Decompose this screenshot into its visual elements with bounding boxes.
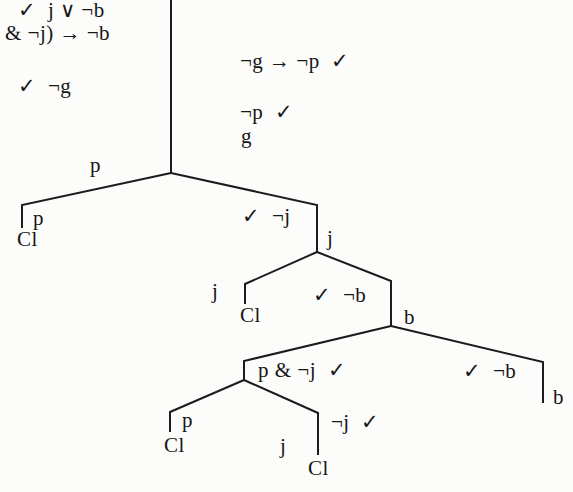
node-label-j: j [327, 228, 333, 249]
formula-checked-not-b-2: ✓ ¬b [463, 361, 516, 382]
closure-mark-2: Cl [240, 305, 261, 326]
formula-j-or-not-b: ✓ j ∨ ¬b [18, 0, 105, 21]
tableau-diagram: ✓ j ∨ ¬b & ¬j) → ¬b ✓ ¬g ¬g → ¬p ✓ ¬p ✓ … [0, 0, 573, 492]
formula-not-g-implies-not-p: ¬g → ¬p ✓ [240, 51, 350, 72]
closure-mark-3: Cl [164, 435, 185, 456]
leaf-literal-p-2: p [182, 410, 193, 431]
formula-checked-not-j: ✓ ¬j [242, 206, 291, 227]
formula-not-j-checked: ¬j ✓ [331, 412, 380, 433]
literal-g: g [241, 126, 252, 147]
fork1-left-edge [22, 173, 171, 228]
formula-not-g: ✓ ¬g [18, 76, 71, 97]
formula-not-p: ¬p ✓ [240, 102, 293, 123]
leaf-literal-p-1: p [33, 208, 44, 229]
tree-branch-lines [0, 0, 573, 492]
formula-conjunction-implies-not-b: & ¬j) → ¬b [5, 23, 110, 44]
edge-label-p: p [90, 155, 101, 176]
edge-label-j: j [212, 281, 218, 302]
fork2-left-edge [245, 252, 317, 304]
closure-mark-1: Cl [17, 229, 38, 250]
closure-mark-4: Cl [308, 458, 329, 479]
formula-checked-not-b-1: ✓ ¬b [313, 285, 366, 306]
formula-p-and-not-j: p & ¬j ✓ [258, 360, 346, 381]
edge-label-j-2: j [280, 436, 286, 457]
node-label-b: b [404, 307, 415, 328]
leaf-label-b: b [553, 387, 564, 408]
